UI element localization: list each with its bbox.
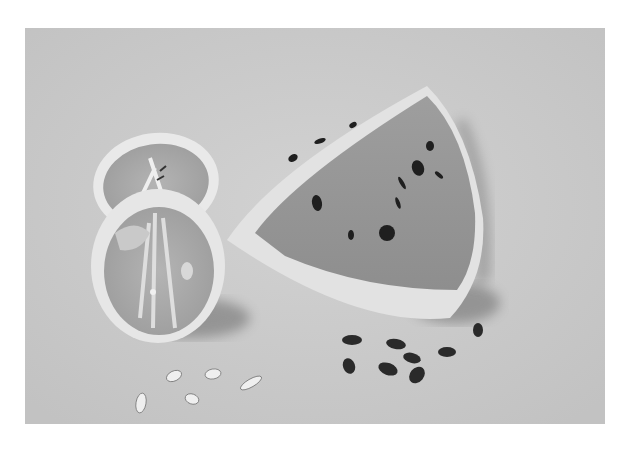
still-life-image (25, 28, 605, 424)
photograph (25, 28, 605, 424)
citrus-slice-front (91, 189, 225, 343)
